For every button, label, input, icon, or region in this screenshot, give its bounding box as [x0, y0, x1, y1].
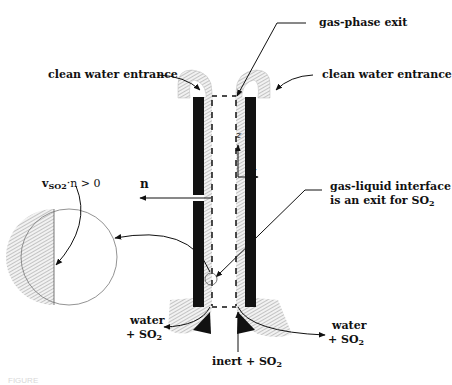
label-interface-line1: gas-liquid interface — [330, 180, 451, 193]
water-right-text: + SO — [328, 333, 359, 346]
water-right-sub: 2 — [359, 337, 365, 347]
label-axis-z: z — [236, 128, 241, 141]
label-water-right-2: + SO2 — [328, 333, 364, 349]
label-flux-condition: vSO2·n > 0 — [42, 177, 101, 193]
water-left-sub: 2 — [157, 332, 163, 342]
flux-sub: SO2 — [48, 181, 66, 191]
label-clean-water-right: clean water entrance — [322, 68, 452, 81]
water-left-text: + SO — [126, 328, 157, 341]
inlet-text: inert + SO — [212, 355, 276, 368]
right-wall — [245, 97, 256, 307]
interface-sub: 2 — [429, 198, 435, 208]
label-water-left-2: + SO2 — [126, 328, 162, 344]
magnified-interface-detail — [6, 209, 117, 305]
label-water-left-1: water — [130, 314, 164, 327]
label-gas-phase-exit: gas-phase exit — [319, 16, 407, 29]
label-axis-r: r — [251, 164, 256, 177]
figure-caption: FIGURE — [8, 376, 38, 385]
label-inlet: inert + SO2 — [212, 355, 282, 371]
interface-text: is an exit for SO — [330, 194, 429, 207]
label-interface-line2: is an exit for SO2 — [330, 194, 435, 210]
flux-rest: ·n > 0 — [67, 177, 101, 190]
label-normal-n: n — [140, 178, 149, 191]
inlet-sub: 2 — [276, 359, 282, 369]
left-liquid-film — [204, 97, 212, 307]
label-water-right-1: water — [332, 319, 366, 332]
left-wall-upper — [193, 97, 204, 195]
label-clean-water-left: clean water entrance — [48, 68, 178, 81]
